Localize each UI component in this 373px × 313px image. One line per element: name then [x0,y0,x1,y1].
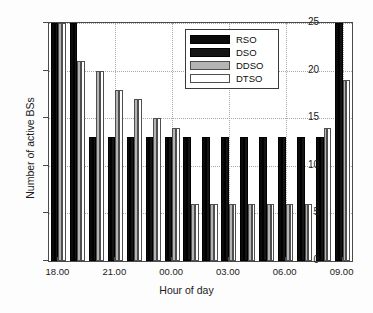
y-tick-mark [43,117,48,118]
bar-dtso [62,23,66,261]
x-axis-label: Hour of day [0,284,373,296]
y-axis-label: Number of active BSs [24,58,36,238]
y-tick-mark [43,165,48,166]
bar-group [163,23,182,261]
bar-group [49,23,68,261]
legend-label: RSO [236,34,257,45]
bar-group [276,23,295,261]
chart-legend: RSODSODDSODTSO [185,29,279,89]
bar-dtso [233,204,237,261]
bar-group [106,23,125,261]
bar-dtso [346,80,350,261]
bar-dtso [81,61,85,261]
y-tick-mark [43,212,48,213]
legend-item-ddso: DDSO [190,59,274,72]
bar-dtso [252,204,256,261]
bar-dtso [271,204,275,261]
legend-item-rso: RSO [190,33,274,46]
bar-dtso [157,118,161,261]
x-tick-label: 09.00 [330,266,354,277]
x-tick-label: 03.00 [216,266,240,277]
bar-group [144,23,163,261]
legend-label: DDSO [236,60,263,71]
y-tick-label: 25 [308,17,319,27]
bar-dtso [308,204,312,261]
bar-dtso [119,90,123,261]
x-tick-label: 00.00 [159,266,183,277]
figure-canvas: 051015202518.0021.0000.0003.0006.0009.00… [0,0,373,313]
legend-swatch-dso [190,48,230,57]
x-tick-label: 18.00 [46,266,70,277]
legend-item-dtso: DTSO [190,72,274,85]
bar-group [295,23,314,261]
legend-label: DSO [236,47,257,58]
bar-dtso [214,204,218,261]
x-tick-label: 21.00 [102,266,126,277]
bar-dtso [195,204,199,261]
y-tick-label: 10 [308,160,319,170]
bar-dtso [327,128,331,261]
x-tick-mark [285,257,286,262]
bar-dtso [100,71,104,261]
y-tick-label: 20 [308,65,319,75]
legend-swatch-rso [190,35,230,44]
legend-swatch-dtso [190,74,230,83]
bar-dtso [176,128,180,261]
x-tick-label: 06.00 [273,266,297,277]
y-tick-label: 0 [313,255,319,265]
x-tick-mark [171,257,172,262]
y-tick-mark [43,22,48,23]
x-tick-mark [57,257,58,262]
bar-dtso [138,99,142,261]
x-tick-mark [228,257,229,262]
y-tick-label: 5 [313,207,319,217]
legend-swatch-ddso [190,61,230,70]
y-tick-label: 15 [308,112,319,122]
bar-group [125,23,144,261]
y-tick-mark [43,70,48,71]
x-tick-mark [342,257,343,262]
bar-group [68,23,87,261]
bar-group [87,23,106,261]
x-tick-mark [114,257,115,262]
legend-item-dso: DSO [190,46,274,59]
y-tick-mark [43,260,48,261]
legend-label: DTSO [236,73,262,84]
bar-dtso [290,204,294,261]
bar-group [314,23,333,261]
bar-group [333,23,352,261]
